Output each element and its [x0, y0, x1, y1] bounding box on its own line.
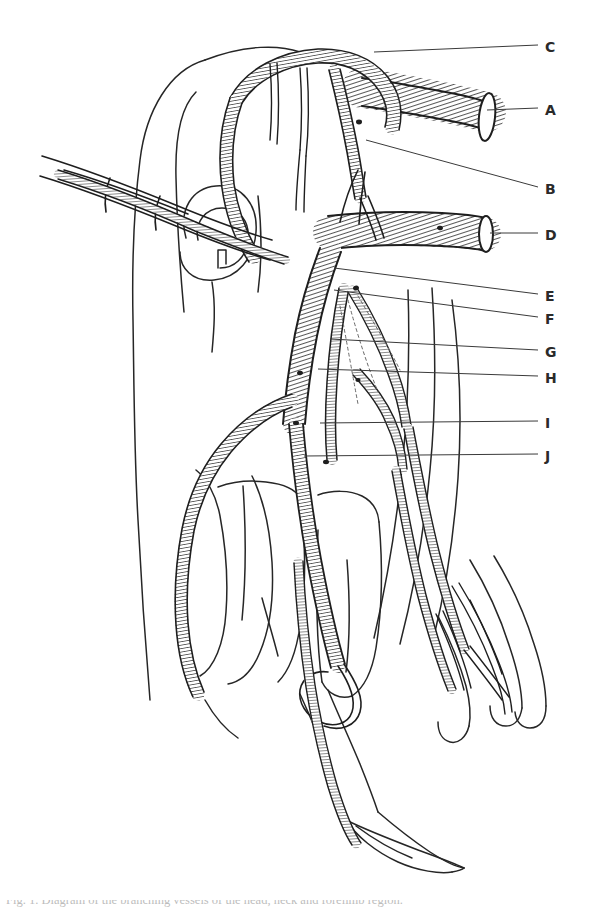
label-a: A [545, 103, 556, 117]
label-i: I [545, 416, 551, 430]
label-e: E [545, 289, 555, 303]
label-d: D [545, 228, 557, 242]
figure-caption: Fig. 1. Diagram of the branching vessels… [6, 900, 592, 908]
label-g: G [545, 345, 557, 359]
label-c: C [545, 40, 556, 54]
label-f: F [545, 312, 555, 326]
label-b: B [545, 182, 556, 196]
vascular-diagram [0, 0, 598, 912]
vessel-D [328, 212, 493, 252]
figure-page: CABDEFGHIJ Fig. 1. Diagram of the branch… [0, 0, 598, 912]
figure-caption-strip: Fig. 1. Diagram of the branching vessels… [0, 900, 598, 912]
label-h: H [545, 371, 557, 385]
label-j: J [545, 449, 551, 463]
